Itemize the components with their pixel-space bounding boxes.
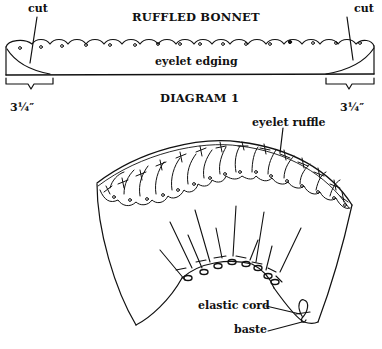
eyelet-ruffle-label: eyelet ruffle bbox=[252, 117, 326, 128]
gathering-lines bbox=[160, 206, 301, 282]
eyelet-ruffle-leader bbox=[280, 128, 283, 153]
ruffle-eyelets bbox=[113, 171, 347, 207]
baste-leader bbox=[268, 322, 302, 331]
elastic-cord-knot bbox=[296, 300, 310, 322]
eyelet-edging-label: eyelet edging bbox=[155, 56, 238, 67]
elastic-cord-label: elastic cord bbox=[198, 300, 270, 311]
elastic-cord-leader bbox=[266, 306, 300, 314]
measure-left-label: 3¼″ bbox=[10, 102, 34, 113]
baste-label: baste bbox=[234, 324, 267, 335]
elastic-gather-loops bbox=[184, 260, 279, 285]
diagram-title: RUFFLED BONNET bbox=[132, 12, 260, 24]
diagram-artwork bbox=[0, 0, 382, 349]
diagram-caption: DIAGRAM 1 bbox=[160, 93, 239, 105]
cut-label-left: cut bbox=[28, 3, 48, 14]
measure-right-label: 3¼″ bbox=[340, 102, 364, 113]
eyelet-edging-strip bbox=[6, 17, 374, 89]
ruffled-bonnet-diagram: RUFFLED BONNET cut cut eyelet edging 3¼″… bbox=[0, 0, 382, 349]
bonnet-body bbox=[97, 141, 352, 325]
cut-label-right: cut bbox=[354, 3, 374, 14]
